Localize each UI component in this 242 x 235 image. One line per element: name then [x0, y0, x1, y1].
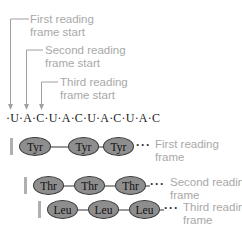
frame-1-bar — [10, 138, 13, 155]
amino-acid-oval: Thr — [115, 176, 146, 195]
arrow-down-icon — [24, 104, 29, 110]
label-line: frame start — [60, 89, 128, 102]
label-line: Second reading — [45, 44, 126, 57]
amino-acid-oval: Thr — [33, 176, 64, 195]
second-frame-start-label: Second reading frame start — [45, 44, 126, 70]
arrow-down-icon — [39, 104, 44, 110]
frame-3-bar — [38, 201, 41, 218]
reading-frames-diagram: First reading frame start Second reading… — [0, 0, 242, 235]
label-line: frame start — [30, 26, 94, 39]
amino-acid-oval: Leu — [88, 200, 119, 219]
amino-acid-oval: Leu — [129, 200, 160, 219]
continuation-ellipsis: ··· — [164, 201, 179, 215]
first-frame-start-label: First reading frame start — [30, 13, 94, 39]
label-line: frame — [183, 214, 242, 227]
amino-acid-oval: Tyr — [103, 137, 134, 156]
frame-2-bar — [24, 177, 27, 194]
continuation-ellipsis: ··· — [136, 138, 151, 152]
label-line: Second reading — [170, 176, 242, 189]
second-frame-label: Second reading frame — [170, 176, 242, 202]
third-frame-start-label: Third reading frame start — [60, 76, 128, 102]
label-line: frame start — [45, 57, 126, 70]
label-line: First reading — [30, 13, 94, 26]
mrna-sequence: ·U·A·C·U·A·C·U·A·C·U·A·C — [6, 111, 160, 126]
amino-acid-oval: Thr — [74, 176, 105, 195]
amino-acid-oval: Leu — [47, 200, 78, 219]
arrow-down-icon — [8, 104, 13, 110]
label-line: frame — [155, 151, 219, 164]
label-line: Third reading — [60, 76, 128, 89]
label-line: Third reading — [183, 201, 242, 214]
continuation-ellipsis: ··· — [150, 177, 165, 191]
first-frame-label: First reading frame — [155, 138, 219, 164]
amino-acid-oval: Tyr — [68, 137, 99, 156]
label-line: First reading — [155, 138, 219, 151]
third-frame-label: Third reading frame — [183, 201, 242, 227]
amino-acid-oval: Tyr — [19, 137, 51, 156]
